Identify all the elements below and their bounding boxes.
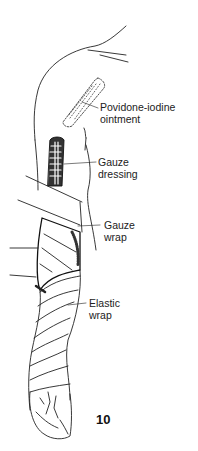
label-line: ointment bbox=[100, 113, 175, 125]
gauze-dressing-strip bbox=[48, 137, 64, 186]
label-gauze-dressing: Gauze dressing bbox=[98, 156, 138, 180]
label-line: Gauze bbox=[98, 156, 138, 168]
figure-number: 10 bbox=[96, 412, 110, 427]
gauze-wrap-region bbox=[10, 218, 80, 292]
label-line: wrap bbox=[89, 309, 120, 321]
arm-illustration bbox=[0, 0, 198, 451]
label-line: Elastic bbox=[89, 297, 120, 309]
elastic-wrap-forearm bbox=[29, 270, 81, 410]
leader-gauze-dressing bbox=[64, 162, 96, 164]
label-line: dressing bbox=[98, 168, 138, 180]
hand-outline bbox=[30, 392, 72, 439]
label-line: Povidone-iodine bbox=[100, 101, 175, 113]
label-povidone-iodine-ointment: Povidone-iodine ointment bbox=[100, 101, 175, 125]
leader-povidone bbox=[82, 102, 98, 108]
label-gauze-wrap: Gauze wrap bbox=[104, 219, 135, 243]
label-line: wrap bbox=[104, 231, 135, 243]
label-line: Gauze bbox=[104, 219, 135, 231]
label-elastic-wrap: Elastic wrap bbox=[89, 297, 120, 321]
